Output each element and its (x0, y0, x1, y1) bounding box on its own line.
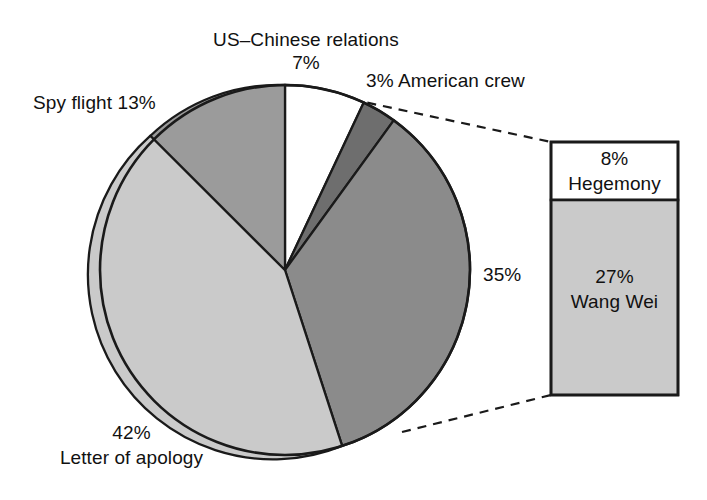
pie-chart-figure: US–Chinese relations 7% 3% American crew… (0, 0, 707, 500)
label-letter-of-apology: 42% Letter of apology (24, 420, 239, 470)
label-letter-of-apology-text: Letter of apology (24, 445, 239, 470)
label-combined-35-value: 35% (483, 263, 521, 286)
label-us-chinese-relations-text: US–Chinese relations (186, 28, 426, 51)
label-american-crew: 3% American crew (366, 69, 525, 92)
label-wang-wei-text: Wang Wei (551, 289, 678, 314)
label-us-chinese-relations: US–Chinese relations 7% (186, 28, 426, 74)
label-hegemony-value: 8% (551, 146, 678, 171)
leader-line-bottom (402, 395, 551, 432)
label-wang-wei-value: 27% (551, 264, 678, 289)
label-wang-wei: 27% Wang Wei (551, 264, 678, 314)
label-hegemony-text: Hegemony (551, 171, 678, 196)
label-hegemony: 8% Hegemony (551, 146, 678, 196)
label-letter-of-apology-value: 42% (24, 420, 239, 445)
pie-slices (88, 85, 470, 460)
label-spy-flight: Spy flight 13% (33, 91, 156, 114)
